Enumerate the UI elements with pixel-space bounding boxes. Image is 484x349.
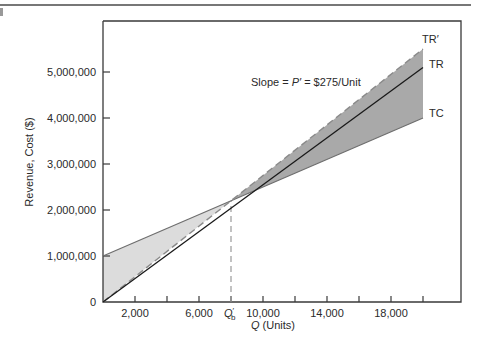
slope-suffix: = $275/Unit: [301, 76, 361, 88]
tc-line: [103, 118, 423, 256]
y-tick-label: 1,000,000: [47, 250, 96, 262]
x-tick-label: 10,000: [246, 307, 280, 319]
y-tick-label: 2,000,000: [47, 204, 96, 216]
y-tick-label: 3,000,000: [47, 158, 96, 170]
slope-prefix: Slope =: [251, 76, 292, 88]
x-axis-title-rest: (Units): [260, 319, 295, 331]
y-tick-label: 4,000,000: [47, 112, 96, 124]
edge-fragment: [0, 8, 3, 16]
qb-sub: b: [231, 313, 236, 322]
x-axis-title: Q (Units): [251, 319, 295, 331]
series-label-tr-prime: TR′: [422, 33, 439, 45]
x-tick-label: 2,000: [121, 307, 149, 319]
x-tick-label: 18,000: [374, 307, 408, 319]
x-tick-label: 6,000: [185, 307, 213, 319]
x-tick-label: 14,000: [310, 307, 344, 319]
breakeven-chart: 2,0006,00010,00014,00018,00001,000,0002,…: [0, 0, 484, 349]
y-tick-label: 5,000,000: [47, 66, 96, 78]
breakeven-q-label: Q′b: [224, 306, 236, 322]
tr-line: [103, 67, 423, 302]
series-label-tr: TR: [429, 58, 444, 70]
y-axis-title: Revenue, Cost ($): [23, 117, 35, 206]
slope-annotation: Slope = P′ = $275/Unit: [251, 76, 361, 88]
series-label-tc: TC: [429, 107, 444, 119]
y-tick-label: 0: [90, 296, 96, 308]
